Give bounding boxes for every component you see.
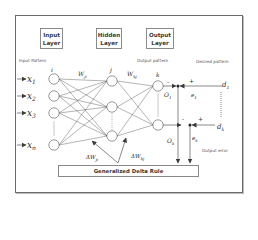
generalized-delta-rule-box: Generalized Delta Rule bbox=[58, 165, 199, 177]
input-nodes bbox=[49, 74, 59, 150]
plus-sign-1: + bbox=[189, 77, 194, 84]
index-j: j bbox=[108, 66, 112, 74]
error-e1: e1 bbox=[191, 92, 197, 100]
delta-wkj: ΔWkj bbox=[130, 153, 145, 161]
index-i: i bbox=[51, 66, 53, 73]
desired-d1: d1 bbox=[222, 81, 229, 90]
input-arrows bbox=[17, 79, 26, 145]
desired-dk: dk bbox=[217, 123, 224, 132]
input-labels: x1 x2 x3 xn bbox=[27, 74, 36, 151]
index-k: k bbox=[156, 71, 160, 78]
input-hidden-connections bbox=[59, 79, 107, 145]
output-o1: O1 bbox=[164, 91, 171, 100]
input-x3: x3 bbox=[27, 108, 36, 119]
output-ok: Ok bbox=[167, 137, 175, 146]
delta-wji: ΔWji bbox=[85, 154, 99, 162]
weight-wkj: Wkj bbox=[127, 70, 138, 79]
plus-sign-k: + bbox=[198, 115, 203, 122]
input-x1: x1 bbox=[27, 74, 36, 85]
error-ek: ek bbox=[192, 135, 198, 143]
input-xn: xn bbox=[27, 140, 36, 151]
input-x2: x2 bbox=[27, 91, 36, 102]
hidden-nodes bbox=[107, 76, 117, 141]
minus-sign-1: - bbox=[167, 78, 169, 85]
minus-sign-k: - bbox=[182, 115, 184, 122]
hidden-output-connections bbox=[117, 81, 153, 136]
weight-wji: Wji bbox=[78, 70, 87, 79]
